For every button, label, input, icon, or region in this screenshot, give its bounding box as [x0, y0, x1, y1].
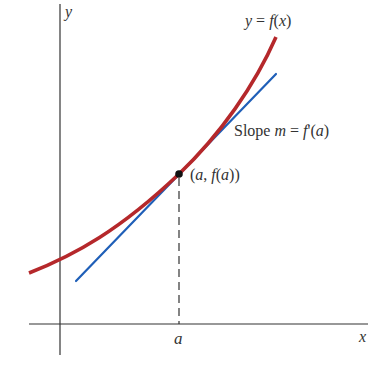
point-label: (a, f(a)): [190, 166, 240, 184]
tangent-line-diagram: y x a y = f(x) Slope m = f'(a) (a, f(a)): [0, 0, 391, 365]
tick-label-a: a: [174, 329, 183, 348]
y-axis-label: y: [63, 3, 73, 21]
function-curve: [29, 37, 276, 273]
slope-label: Slope m = f'(a): [234, 122, 329, 140]
curve-label: y = f(x): [243, 12, 291, 30]
x-axis-label: x: [358, 328, 366, 345]
tangent-point: [175, 170, 183, 178]
